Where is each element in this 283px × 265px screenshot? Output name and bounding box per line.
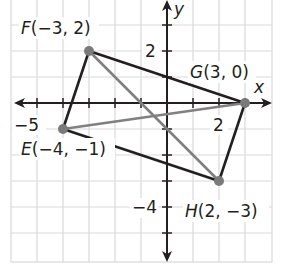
grid: [11, 0, 272, 262]
label-H: H(2, −3): [185, 201, 258, 221]
coordinate-plane-figure: F(−3, 2) G(3, 0) E(−4, −1) H(2, −3) x y …: [0, 0, 283, 265]
x-axis-label: x: [253, 77, 265, 97]
point-G: [240, 98, 250, 108]
point-F: [84, 46, 94, 56]
x-tick-label-2: 2: [213, 115, 224, 135]
y-tick-label-2: 2: [145, 41, 156, 61]
x-tick-label-neg5: −5: [14, 115, 39, 135]
label-F: F(−3, 2): [21, 18, 91, 38]
y-axis-label: y: [173, 0, 185, 19]
point-H: [214, 176, 224, 186]
label-E: E(−4, −1): [21, 139, 106, 159]
point-E: [58, 124, 68, 134]
label-G: G(3, 0): [190, 62, 249, 82]
y-tick-label-neg4: −4: [132, 197, 157, 217]
side-EF: [63, 51, 89, 129]
